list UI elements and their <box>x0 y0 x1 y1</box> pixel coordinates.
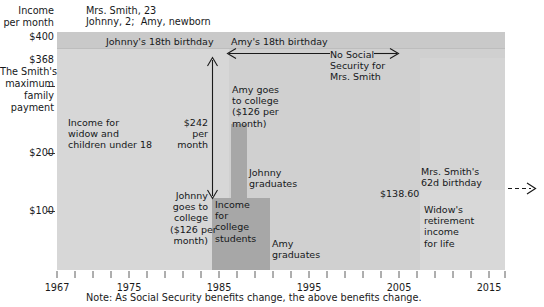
annotation-income-college-students: Income for college students <box>215 199 256 244</box>
annotation-no-social-security: No Social Security for Mrs. Smith <box>330 49 385 83</box>
y-tick-label-100: $100 <box>0 205 54 216</box>
y-tick-label-400: $400 <box>0 31 54 42</box>
annotation-amys-18th-birthday: Amy's 18th birthday <box>231 36 328 47</box>
y-axis-title-line2: per month <box>3 17 54 28</box>
x-tick-label-2015: 2015 <box>477 282 502 293</box>
dashed-continuation-arrow <box>508 183 536 194</box>
annotation-johnnys-18th-birthday: Johnny's 18th birthday <box>106 36 214 47</box>
max-family-payment-label: The Smith's maximum family payment <box>0 66 54 115</box>
annotation-johnny-graduates: Johnny graduates <box>249 167 297 189</box>
family-header-line2: Johnny, 2; Amy, newborn <box>86 16 211 27</box>
annotation-johnny-goes-to-college: Johnny goes to college ($126 per month) <box>170 190 208 246</box>
block-johnny-college <box>231 124 247 198</box>
family-header-line1: Mrs. Smith, 23 <box>86 5 156 16</box>
y-axis-title: Incomeper month <box>0 5 54 29</box>
gridline-upper <box>57 48 505 49</box>
annotation-amy-graduates: Amy graduates <box>272 238 320 260</box>
annotation-242-per-month: $242 per month <box>176 117 208 151</box>
family-header: Mrs. Smith, 23Johnny, 2; Amy, newborn <box>86 5 211 28</box>
benefits-timeline-chart: Incomeper month $400 $368 The Smith's ma… <box>0 0 544 307</box>
annotation-amy-goes-to-college: Amy goes to college ($126 per month) <box>232 84 279 129</box>
annotation-mrs-smith-62d-birthday: Mrs. Smith's 62d birthday <box>421 166 482 188</box>
annotation-widows-retirement-income: Widow's retirement income for life <box>424 204 474 249</box>
y-tick-label-368: $368 <box>0 54 54 65</box>
x-tick-label-1967: 1967 <box>45 282 70 293</box>
x-axis-ticks <box>57 271 505 278</box>
annotation-138-60: $138.60 <box>380 188 419 199</box>
footer-note: Note: As Social Security benefits change… <box>86 292 421 303</box>
y-tick-label-200: $200 <box>0 147 54 158</box>
annotation-income-widow-children: Income for widow and children under 18 <box>68 117 152 151</box>
y-axis-title-line1: Income <box>18 5 54 16</box>
